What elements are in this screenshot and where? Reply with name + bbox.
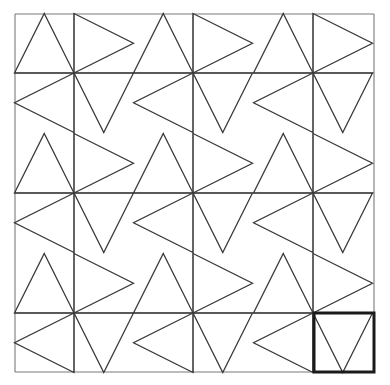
left-triangle <box>254 73 314 133</box>
down-triangle <box>193 73 253 133</box>
left-triangle <box>134 73 194 133</box>
up-triangle <box>254 134 314 194</box>
pinwheel-triangle-tiling <box>0 0 390 385</box>
down-triangle <box>74 313 134 373</box>
right-triangle <box>313 134 373 194</box>
right-triangle <box>313 14 373 74</box>
right-triangle <box>193 14 253 74</box>
right-triangle <box>74 14 134 74</box>
down-triangle <box>313 193 373 253</box>
up-triangle <box>134 134 194 194</box>
left-triangle <box>134 193 194 253</box>
up-triangle <box>134 14 194 74</box>
up-triangle <box>15 254 75 314</box>
right-triangle <box>74 254 134 314</box>
left-triangle <box>254 313 314 373</box>
left-triangle <box>134 313 194 373</box>
up-triangle <box>134 254 194 314</box>
highlighted-unit-cell <box>314 313 374 372</box>
right-triangle <box>313 254 373 314</box>
right-triangle <box>74 134 134 194</box>
right-triangle <box>193 134 253 194</box>
right-triangle <box>193 254 253 314</box>
down-triangle <box>74 73 134 133</box>
left-triangle <box>15 73 75 133</box>
up-triangle <box>15 14 75 74</box>
down-triangle <box>193 313 253 373</box>
down-triangle <box>313 73 373 133</box>
up-triangle <box>15 134 75 194</box>
left-triangle <box>15 193 75 253</box>
triangle-pinwheels <box>15 14 373 373</box>
up-triangle <box>254 14 314 74</box>
down-triangle <box>313 313 373 373</box>
down-triangle <box>193 193 253 253</box>
left-triangle <box>15 313 75 373</box>
left-triangle <box>254 193 314 253</box>
up-triangle <box>254 254 314 314</box>
down-triangle <box>74 193 134 253</box>
